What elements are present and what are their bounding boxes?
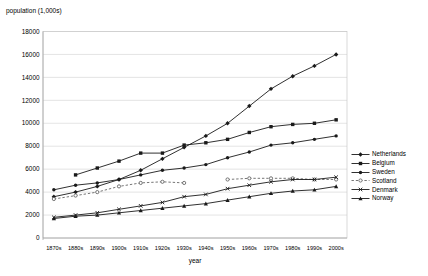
square-marker	[161, 151, 164, 154]
y-tick-label: 12000	[22, 97, 40, 104]
y-tick-label: 6000	[25, 165, 40, 172]
legend: NetherlandsBelgiumSwedenScotlandDenmarkN…	[351, 150, 406, 203]
circle-marker	[359, 170, 362, 173]
y-tick-label: 14000	[22, 74, 40, 81]
circle-marker	[139, 173, 142, 176]
plot-border	[43, 32, 347, 239]
circle-marker	[182, 166, 185, 169]
legend-label: Netherlands	[372, 150, 406, 158]
legend-label: Scotland	[372, 177, 397, 185]
circle-marker	[161, 169, 164, 172]
square-marker	[226, 138, 229, 141]
circle-open-marker	[96, 191, 99, 194]
square-marker	[117, 159, 120, 162]
circle-marker	[291, 141, 294, 144]
circle-open-marker	[248, 177, 251, 180]
legend-entry-scotland: Scotland	[351, 176, 406, 185]
circle-marker	[204, 163, 207, 166]
x-tick-label: 2000s	[329, 245, 344, 251]
circle-marker	[74, 184, 77, 187]
y-tick-label: 0	[36, 234, 40, 241]
square-marker	[248, 131, 251, 134]
square-marker	[269, 125, 272, 128]
circle-open-legend-swatch	[351, 176, 370, 185]
circle-marker	[334, 134, 337, 137]
x-tick-label: 1970s	[263, 245, 278, 251]
x-tick-label: 1890s	[90, 245, 105, 251]
circle-marker	[269, 143, 272, 146]
diamond-marker	[358, 152, 362, 156]
diamond-marker	[291, 74, 295, 78]
circle-open-marker	[117, 185, 120, 188]
y-tick-label: 8000	[25, 142, 40, 149]
circle-open-marker	[269, 177, 272, 180]
x-tick-label: 1980s	[285, 245, 300, 251]
x-tick-label: 1940s	[198, 245, 213, 251]
series-line-belgium	[76, 120, 337, 175]
diamond-legend-swatch	[351, 150, 370, 159]
x-tick-label: 1910s	[133, 245, 148, 251]
legend-label: Sweden	[372, 168, 395, 176]
circle-open-marker	[183, 181, 186, 184]
legend-entry-netherlands: Netherlands	[351, 150, 406, 159]
diamond-marker	[312, 64, 316, 68]
circle-marker	[96, 181, 99, 184]
x-tick-label: 1870s	[46, 245, 61, 251]
y-tick-label: 2000	[25, 211, 40, 218]
circle-open-marker	[161, 180, 164, 183]
x-tick-label: 1990s	[307, 245, 322, 251]
square-marker	[96, 166, 99, 169]
legend-entry-denmark: Denmark	[351, 185, 406, 194]
diamond-marker	[160, 157, 164, 161]
circle-marker	[52, 188, 55, 191]
plot-area: 0200040006000800010000120001400016000180…	[0, 0, 428, 276]
square-marker	[139, 151, 142, 154]
legend-entry-norway: Norway	[351, 194, 406, 203]
circle-marker	[313, 138, 316, 141]
circle-marker	[117, 178, 120, 181]
legend-entry-belgium: Belgium	[351, 159, 406, 168]
x-tick-label: 1930s	[177, 245, 192, 251]
square-marker	[204, 141, 207, 144]
legend-label: Denmark	[372, 186, 398, 194]
y-tick-label: 4000	[25, 188, 40, 195]
circle-open-marker	[139, 181, 142, 184]
square-marker	[182, 143, 185, 146]
diamond-marker	[95, 184, 99, 188]
x-axis-title: year	[189, 257, 202, 264]
square-marker	[334, 118, 337, 121]
circle-open-marker	[226, 178, 229, 181]
x-tick-label: 1920s	[155, 245, 170, 251]
square-marker	[291, 123, 294, 126]
x-tick-label: 1950s	[220, 245, 235, 251]
square-marker	[359, 162, 362, 165]
circle-open-marker	[359, 179, 362, 182]
circle-legend-swatch	[351, 168, 370, 177]
y-tick-label: 16000	[22, 51, 40, 58]
circle-marker	[226, 156, 229, 159]
legend-label: Belgium	[372, 159, 395, 167]
population-line-chart: population (1,000s) 02000400060008000100…	[0, 0, 428, 276]
y-tick-label: 18000	[22, 28, 40, 35]
diamond-marker	[334, 52, 338, 56]
square-marker	[313, 122, 316, 125]
diamond-marker	[139, 168, 143, 172]
legend-label: Norway	[372, 194, 393, 202]
x-tick-label: 1900s	[111, 245, 126, 251]
legend-entry-sweden: Sweden	[351, 168, 406, 177]
x-legend-swatch	[351, 185, 370, 194]
triangle-legend-swatch	[351, 194, 370, 203]
y-tick-label: 10000	[22, 119, 40, 126]
diamond-marker	[204, 134, 208, 138]
circle-marker	[248, 150, 251, 153]
square-legend-swatch	[351, 159, 370, 168]
circle-open-marker	[52, 197, 55, 200]
x-tick-label: 1880s	[68, 245, 83, 251]
square-marker	[74, 173, 77, 176]
x-tick-label: 1960s	[242, 245, 257, 251]
circle-open-marker	[74, 194, 77, 197]
